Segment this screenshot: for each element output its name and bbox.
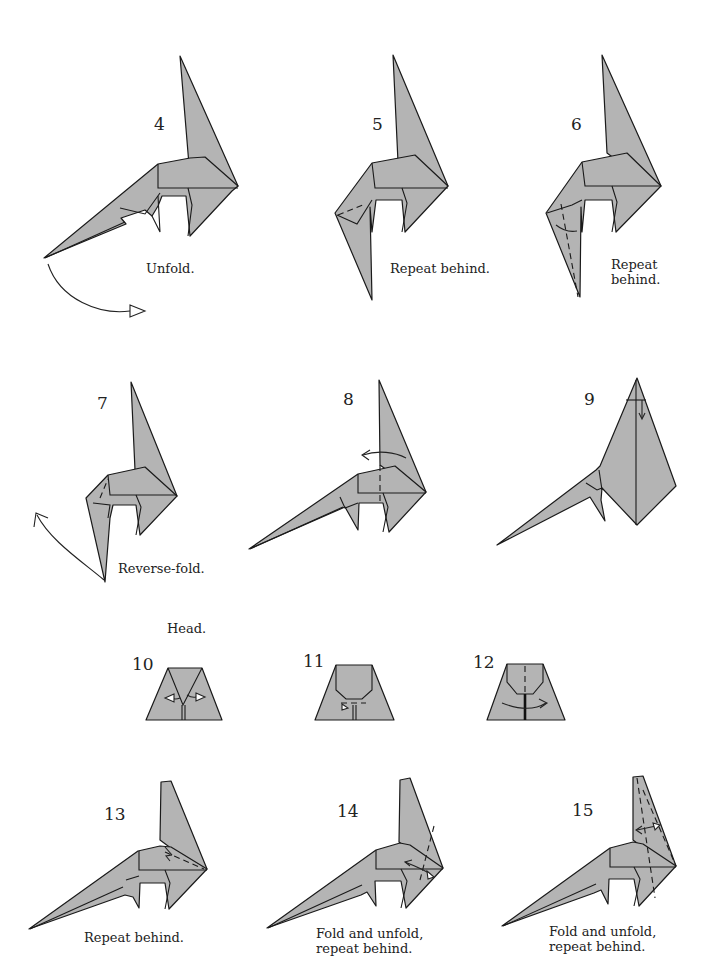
step-15-caption-line1: Fold and unfold,	[549, 924, 656, 939]
step-15: 15 Fold and unfold, repeat behind.	[0, 0, 719, 975]
step-15-diagram	[0, 0, 719, 975]
step-15-number: 15	[572, 800, 594, 820]
step-15-caption-line2: repeat behind.	[549, 939, 645, 954]
